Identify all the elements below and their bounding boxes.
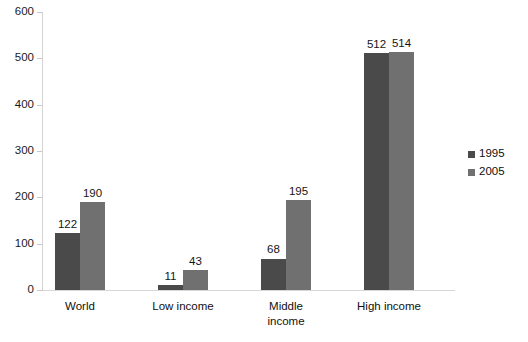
bar — [286, 200, 311, 290]
bar — [364, 53, 389, 290]
legend-item-label: 2005 — [479, 166, 505, 178]
y-axis-tick-label-text: 300 — [0, 145, 34, 157]
bar-value-label: 43 — [177, 256, 214, 268]
y-axis-tick-label-text: 100 — [0, 238, 34, 250]
bar — [389, 52, 414, 290]
bar — [261, 259, 286, 291]
bar-chart: 6005004003002001000 12219011436819551251… — [0, 0, 528, 342]
x-axis-line — [42, 290, 455, 291]
x-axis-category-label: World — [20, 299, 140, 314]
bar-value-label: 514 — [383, 38, 420, 50]
legend-item[interactable]: 2005 — [468, 164, 505, 180]
x-axis-category-label: Low income — [123, 299, 243, 314]
bar — [55, 233, 80, 290]
x-axis-category-label-line: High income — [329, 299, 449, 314]
y-axis-tick-label: 200 — [0, 191, 34, 203]
y-axis-tick-label-text: 500 — [0, 52, 34, 64]
y-axis-tick-label-text: 400 — [0, 99, 34, 111]
y-axis-tick-label: 100 — [0, 238, 34, 250]
x-axis-category-label-line: Low income — [123, 299, 243, 314]
y-axis-tick — [37, 290, 43, 291]
bar — [158, 285, 183, 290]
x-axis-category-label: Middleincome — [226, 299, 346, 329]
bar — [80, 202, 105, 290]
x-axis-category-label-line: income — [226, 314, 346, 329]
x-axis-category-label-line: Middle — [226, 299, 346, 314]
y-axis-tick-label: 500 — [0, 52, 34, 64]
bar-value-label: 190 — [74, 188, 111, 200]
legend-swatch-1995 — [468, 151, 475, 158]
legend-item-label: 1995 — [479, 148, 505, 160]
legend-swatch-2005 — [468, 169, 475, 176]
y-axis-tick-label: 300 — [0, 145, 34, 157]
bar-value-label: 195 — [280, 186, 317, 198]
y-axis-tick-label: 400 — [0, 99, 34, 111]
chart-title-fragment — [0, 0, 528, 3]
y-axis-tick-label: 0 — [0, 284, 34, 296]
y-axis-tick-label: 600 — [0, 6, 34, 18]
chart-legend: 19952005 — [468, 146, 505, 182]
legend-item[interactable]: 1995 — [468, 146, 505, 162]
x-axis-category-label: High income — [329, 299, 449, 314]
bar — [183, 270, 208, 290]
plot-area: 122190114368195512514 — [42, 12, 455, 290]
y-axis-tick-label-text: 0 — [0, 284, 34, 296]
y-axis-tick-label-text: 600 — [0, 6, 34, 18]
x-axis-category-label-line: World — [20, 299, 140, 314]
y-axis-tick-label-text: 200 — [0, 191, 34, 203]
